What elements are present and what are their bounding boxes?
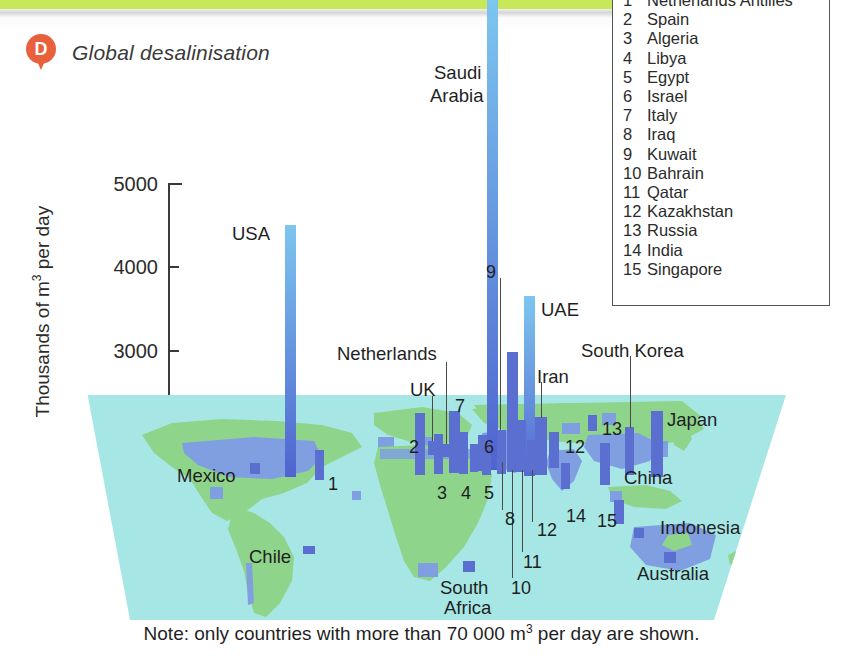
- leader-line-iraq: [502, 462, 503, 510]
- map-number-11: 11: [523, 552, 542, 573]
- bar-cluster-extra-2: [527, 440, 535, 472]
- map-number-2: 2: [409, 437, 419, 458]
- map-number-10: 10: [511, 578, 531, 599]
- map-label-japan: Japan: [667, 410, 717, 430]
- leader-line-kazakhstan-12: [532, 470, 533, 522]
- map-label-south-korea: South Korea: [581, 341, 684, 361]
- bar-libya: [459, 432, 468, 474]
- map-label-usa: USA: [232, 224, 270, 244]
- map-label-south-africa-1: South: [440, 578, 488, 598]
- leader-line-south-korea: [630, 356, 631, 428]
- bar-saudi-arabia: [487, 0, 498, 470]
- leader-line-iran: [541, 382, 542, 418]
- map-label-netherlands: Netherlands: [337, 344, 437, 364]
- map-label-iran: Iran: [537, 367, 569, 387]
- map-label-saudi-2: Arabia: [430, 86, 483, 106]
- map-number-15: 15: [597, 511, 617, 532]
- map-label-uae: UAE: [541, 300, 579, 320]
- map-number-8: 8: [505, 509, 515, 530]
- bar-indonesia: [634, 528, 644, 538]
- bar-netherlands-antilles: [315, 450, 324, 480]
- bar-india: [561, 463, 570, 489]
- map-number-6: 6: [484, 437, 494, 458]
- map-number-12b: 12: [565, 437, 585, 458]
- map-label-saudi-1: Saudi: [434, 63, 481, 83]
- map-number-5: 5: [484, 483, 494, 504]
- map-number-12a: 12: [537, 520, 557, 541]
- bar-overlay-layer: USA Saudi Arabia Netherlands UK UAE Iran…: [0, 0, 843, 661]
- map-number-14: 14: [566, 506, 586, 527]
- map-label-chile: Chile: [249, 547, 291, 567]
- map-label-south-africa-2: Africa: [444, 598, 491, 618]
- bar-kazakhstan: [549, 432, 559, 468]
- map-number-13: 13: [602, 419, 622, 440]
- bar-netherlands: [441, 444, 450, 457]
- figure-panel: D Global desalinisation 1Netherlands Ant…: [0, 0, 843, 661]
- map-number-9: 9: [486, 262, 496, 283]
- map-label-uk: UK: [410, 380, 436, 400]
- map-label-indonesia: Indonesia: [660, 518, 740, 538]
- leader-line-qatar: [522, 470, 523, 552]
- map-number-1: 1: [328, 474, 338, 495]
- map-label-china: China: [624, 468, 672, 488]
- bar-qatar: [518, 420, 526, 472]
- leader-line-kuwait: [500, 278, 501, 430]
- map-label-australia: Australia: [637, 564, 709, 584]
- chart-note-pre: Note: only countries with more than 70 0…: [144, 623, 526, 644]
- bar-russia: [588, 415, 597, 431]
- leader-line-uk: [432, 396, 433, 441]
- map-number-7: 7: [455, 396, 465, 417]
- bar-bahrain: [508, 424, 516, 472]
- bar-uk: [428, 441, 437, 455]
- bar-iran: [535, 417, 547, 475]
- chart-note-superscript: 3: [526, 622, 533, 636]
- bar-mexico: [250, 463, 260, 474]
- map-number-4: 4: [461, 483, 471, 504]
- leader-line-netherlands: [446, 362, 447, 444]
- map-label-mexico: Mexico: [177, 466, 236, 486]
- bar-chile: [303, 546, 315, 554]
- bar-south-africa: [463, 561, 475, 572]
- map-number-3: 3: [437, 483, 447, 504]
- bar-china: [600, 443, 610, 485]
- chart-note: Note: only countries with more than 70 0…: [0, 622, 843, 645]
- bar-australia: [664, 552, 676, 563]
- bar-usa: [285, 225, 296, 477]
- bar-cluster-extra-1: [470, 444, 478, 472]
- chart-note-post: per day are shown.: [533, 623, 700, 644]
